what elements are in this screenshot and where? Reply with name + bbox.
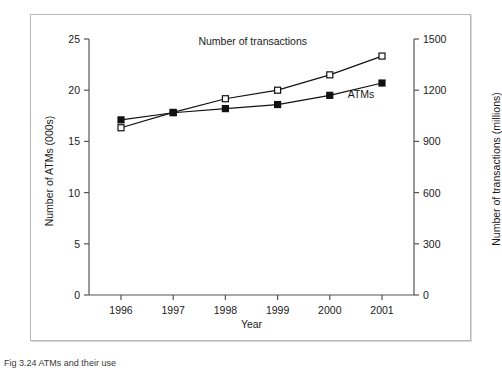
x-axis-ticks: 199619971998199920002001 (109, 295, 394, 316)
left-tick-label: 0 (74, 289, 80, 301)
left-axis-ticks: 0510152025 (68, 33, 89, 301)
x-tick-label: 2000 (318, 304, 342, 316)
data-point-marker (327, 72, 333, 78)
x-tick-label: 1996 (109, 304, 133, 316)
y-axis-left-label: Number of ATMs (000s) (43, 76, 55, 266)
data-point-marker (170, 110, 176, 116)
data-point-marker (379, 80, 385, 86)
data-point-marker (118, 125, 124, 131)
x-tick-label: 1997 (162, 304, 186, 316)
data-point-marker (222, 106, 228, 112)
right-tick-label: 1200 (423, 84, 447, 96)
right-tick-label: 900 (423, 135, 441, 147)
y-axis-right-label: Number of transactions (millions) (490, 54, 502, 284)
data-point-marker (379, 53, 385, 59)
left-tick-label: 10 (68, 187, 80, 199)
right-tick-label: 600 (423, 187, 441, 199)
right-axis-ticks: 030060090012001500 (414, 33, 447, 301)
chart-annotations: Number of transactionsATMs (198, 35, 374, 100)
x-tick-label: 1998 (214, 304, 238, 316)
data-point-marker (327, 92, 333, 98)
right-tick-label: 300 (423, 238, 441, 250)
chart-canvas: 0510152025 030060090012001500 1996199719… (31, 15, 472, 342)
data-point-marker (275, 87, 281, 93)
annotation-atms: ATMs (348, 88, 375, 100)
left-tick-label: 25 (68, 33, 80, 45)
left-tick-label: 5 (74, 238, 80, 250)
figure-caption: Fig 3.24 ATMs and their use (4, 358, 116, 373)
x-axis-label: Year (31, 318, 472, 330)
annotation-transactions: Number of transactions (198, 35, 307, 47)
left-tick-label: 20 (68, 84, 80, 96)
data-point-marker (222, 96, 228, 102)
x-tick-label: 1999 (266, 304, 290, 316)
right-tick-label: 0 (423, 289, 429, 301)
data-point-marker (275, 102, 281, 108)
left-tick-label: 15 (68, 135, 80, 147)
right-tick-label: 1500 (423, 33, 447, 45)
data-point-marker (118, 117, 124, 123)
figure-frame: 0510152025 030060090012001500 1996199719… (30, 14, 471, 341)
x-tick-label: 2001 (370, 304, 394, 316)
